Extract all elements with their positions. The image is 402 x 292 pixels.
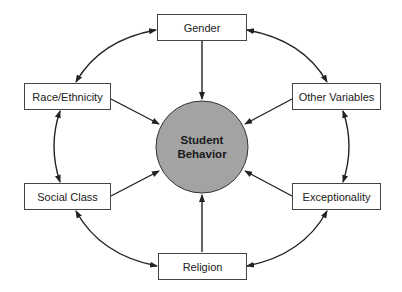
node-label: Other Variables bbox=[299, 91, 375, 103]
node-label: Religion bbox=[183, 261, 223, 273]
node-exceptionality: Exceptionality bbox=[292, 183, 381, 210]
node-label: Gender bbox=[184, 22, 221, 34]
node-social-class: Social Class bbox=[24, 183, 111, 210]
center-line-1: Student bbox=[181, 133, 224, 147]
center-line-2: Behavior bbox=[177, 147, 226, 161]
node-religion: Religion bbox=[158, 253, 247, 280]
node-gender: Gender bbox=[157, 14, 247, 41]
student-behavior-label: Student Behavior bbox=[156, 120, 248, 174]
node-other-variables: Other Variables bbox=[292, 83, 381, 110]
node-label: Exceptionality bbox=[303, 191, 371, 203]
node-label: Social Class bbox=[37, 191, 98, 203]
node-race-ethnicity: Race/Ethnicity bbox=[24, 83, 111, 110]
node-label: Race/Ethnicity bbox=[32, 91, 102, 103]
